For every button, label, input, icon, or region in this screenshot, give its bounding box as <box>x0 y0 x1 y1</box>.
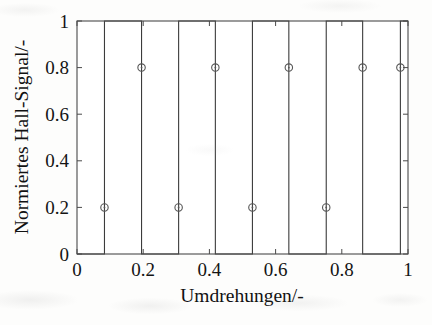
data-point-center <box>214 67 216 69</box>
y-tick-label: 0.8 <box>45 57 69 78</box>
x-tick-label: 0.4 <box>198 259 222 280</box>
plot-background <box>77 21 408 254</box>
data-point-center <box>252 207 254 209</box>
data-point-center <box>325 207 327 209</box>
y-tick-label: 0.6 <box>45 104 69 125</box>
y-tick-label: 0.2 <box>45 197 69 218</box>
y-tick-labels: 00.20.40.60.81 <box>45 11 69 265</box>
y-tick-label: 0.4 <box>45 150 69 171</box>
y-tick-label: 1 <box>60 11 70 32</box>
data-point-center <box>399 67 401 69</box>
x-tick-label: 0.2 <box>131 259 155 280</box>
chart-figure: 00.20.40.60.81 00.20.40.60.81 Umdrehunge… <box>0 0 432 325</box>
y-axis-title: Normiertes Hall-Signal/- <box>11 40 32 234</box>
data-point-center <box>104 207 106 209</box>
data-point-center <box>141 67 143 69</box>
x-tick-label: 0 <box>72 259 82 280</box>
hall-signal-chart: 00.20.40.60.81 00.20.40.60.81 Umdrehunge… <box>0 0 432 325</box>
x-tick-label: 0.6 <box>264 259 288 280</box>
x-tick-label: 1 <box>403 259 413 280</box>
y-tick-label: 0 <box>60 244 70 265</box>
data-point-center <box>288 67 290 69</box>
x-tick-labels: 00.20.40.60.81 <box>72 259 413 280</box>
data-point-center <box>362 67 364 69</box>
data-point-center <box>178 207 180 209</box>
x-tick-label: 0.8 <box>330 259 354 280</box>
x-axis-title: Umdrehungen/- <box>180 285 303 306</box>
